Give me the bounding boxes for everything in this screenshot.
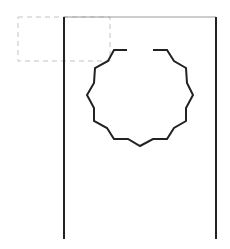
gear-outline: [87, 50, 193, 146]
